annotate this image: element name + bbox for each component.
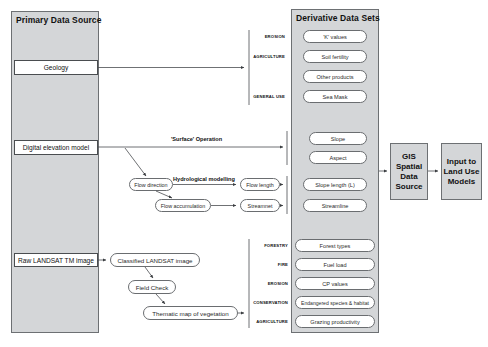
process-node-flow-direction[interactable]: Flow direction: [129, 178, 173, 191]
wire-classified-to-fieldcheck: [145, 267, 153, 278]
operation-label-surface-operation: 'Surface' Operation: [171, 136, 222, 142]
source-box-digital-elevation-model[interactable]: Digital elevation model: [14, 140, 98, 155]
dataset-pill[interactable]: 'K' values: [303, 30, 367, 43]
category-label-agriculture-veg: AGRICULTURE: [244, 319, 288, 324]
process-node-thematic-map-of-vegetation[interactable]: Thematic map of vegetation: [143, 306, 238, 320]
dataset-pill[interactable]: Slope: [309, 132, 367, 145]
category-label-agriculture: AGRICULTURE: [241, 54, 285, 59]
output-box-input-to-land-use-models[interactable]: Input to Land Use Models: [441, 143, 482, 200]
output-label-input: Input to Land Use Models: [443, 157, 479, 187]
operation-label-hydrological-modelling: Hydrological modelling: [173, 176, 235, 182]
category-label-erosion-veg: EROSION: [250, 281, 288, 286]
dataset-pill[interactable]: Grazing productivity: [295, 315, 375, 328]
dataset-pill[interactable]: CP values: [295, 277, 375, 290]
category-label-fire: FIRE: [250, 262, 288, 267]
dataset-pill[interactable]: Fuel load: [295, 258, 375, 271]
dataset-pill[interactable]: Slope length (L): [303, 178, 367, 191]
derivative-data-sets-title: Derivative Data Sets: [296, 13, 380, 23]
source-box-raw-landsat-tm-image[interactable]: Raw LANDSAT TM image: [14, 253, 98, 267]
dataset-pill[interactable]: Forest types: [295, 239, 375, 252]
process-node-flow-accumulation[interactable]: Flow accumulation: [155, 199, 211, 212]
output-label-gis: GIS Spatial Data Source: [395, 152, 422, 192]
dataset-pill[interactable]: Streamline: [303, 199, 367, 212]
category-label-forestry: FORESTRY: [250, 243, 288, 248]
wire-fieldcheck-to-thematic: [156, 294, 165, 304]
dataset-pill[interactable]: Sea Mask: [303, 90, 367, 103]
category-label-erosion: EROSION: [245, 34, 285, 39]
primary-data-source-title: Primary Data Source: [16, 15, 102, 25]
process-node-flow-length[interactable]: Flow length: [240, 178, 280, 191]
process-node-field-check[interactable]: Field Check: [128, 280, 176, 294]
dataset-pill[interactable]: Aspect: [309, 151, 367, 164]
dataset-pill[interactable]: Soil fertility: [303, 50, 367, 63]
process-node-classified-landsat-image[interactable]: Classified LANDSAT image: [110, 253, 200, 267]
source-box-geology[interactable]: Geology: [14, 60, 98, 75]
output-box-gis-spatial-data-source[interactable]: GIS Spatial Data Source: [390, 143, 428, 200]
dataset-pill[interactable]: Other products: [303, 70, 367, 83]
category-label-general-use: GENERAL USE: [243, 94, 285, 99]
diagram-canvas: Primary Data Source Geology Digital elev…: [0, 0, 488, 347]
wire-flowdir-to-flowaccum: [156, 191, 172, 198]
dataset-pill[interactable]: Endangered species & habitat: [295, 296, 375, 309]
process-node-streamnet[interactable]: Streamnet: [240, 199, 280, 212]
wire-dem-to-flow-direction: [125, 148, 146, 176]
category-label-conservation: CONSERVATION: [238, 300, 288, 305]
